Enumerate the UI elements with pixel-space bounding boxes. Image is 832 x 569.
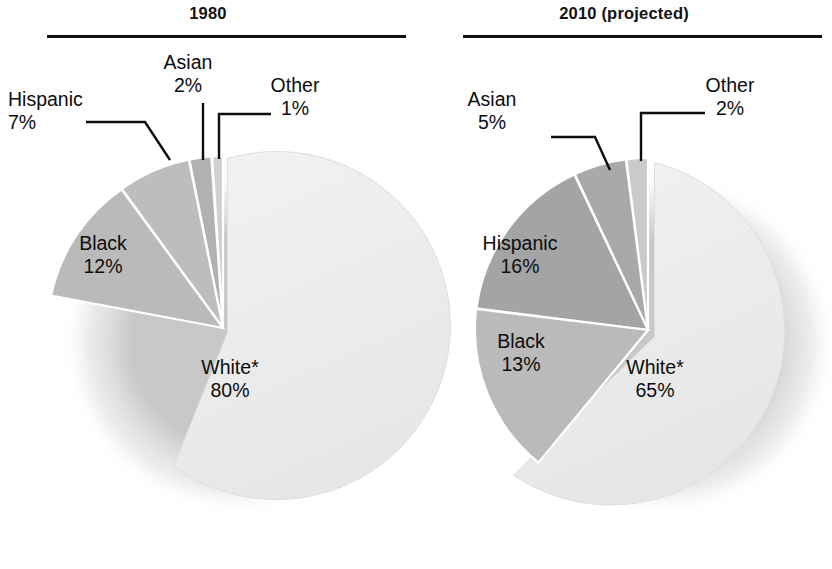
slice-label-hispanic-1980: Hispanic 7% [8, 88, 83, 134]
slice-label-name: Black [79, 232, 127, 254]
slice-label-value: 1% [251, 97, 339, 120]
slice-label-value: 7% [8, 111, 83, 134]
slice-label-value: 5% [446, 111, 538, 134]
title-rule [463, 35, 822, 38]
slice-label-name: Asian [468, 88, 517, 110]
slice-label-name: Black [497, 330, 545, 352]
slice-label-value: 2% [685, 97, 775, 120]
slice-label-other-2010: Other 2% [685, 74, 775, 120]
slice-label-name: Other [271, 74, 320, 96]
slice-label-asian-2010: Asian 5% [446, 88, 538, 134]
pie-chart-figure: 1980 2010 (projected) Hispanic 7% Asian … [0, 0, 832, 569]
slice-label-hispanic-2010: Hispanic 16% [462, 232, 578, 278]
panel-title-2010: 2010 (projected) [416, 4, 832, 23]
slice-label-value: 65% [600, 379, 710, 402]
slice-label-value: 13% [476, 353, 566, 376]
slice-label-other-1980: Other 1% [251, 74, 339, 120]
slice-label-black-2010: Black 13% [476, 330, 566, 376]
slice-label-name: Other [706, 74, 755, 96]
slice-label-value: 16% [462, 255, 578, 278]
slice-label-black-1980: Black 12% [58, 232, 148, 278]
panel-title-1980: 1980 [0, 4, 416, 23]
slice-label-name: Hispanic [483, 232, 558, 254]
slice-label-name: White* [626, 356, 683, 378]
slice-label-name: White* [201, 356, 258, 378]
slice-label-asian-1980: Asian 2% [142, 51, 234, 97]
slice-label-white-2010: White* 65% [600, 356, 710, 402]
slice-label-value: 80% [175, 379, 285, 402]
slice-label-value: 12% [58, 255, 148, 278]
slice-label-name: Hispanic [8, 88, 83, 110]
slice-label-name: Asian [164, 51, 213, 73]
slice-label-value: 2% [142, 74, 234, 97]
slice-label-white-1980: White* 80% [175, 356, 285, 402]
title-rule [47, 35, 406, 38]
